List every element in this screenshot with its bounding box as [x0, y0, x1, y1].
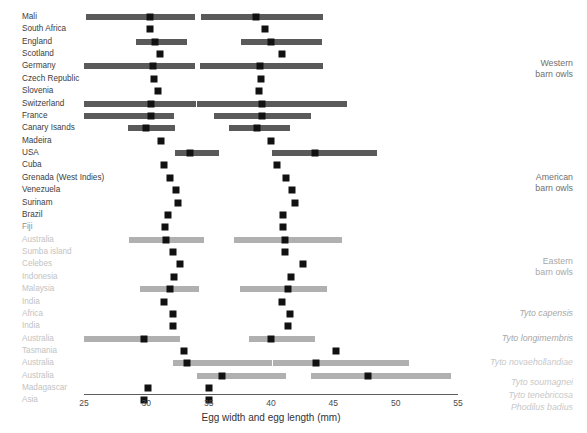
length-mean-marker	[268, 38, 275, 45]
length-mean-marker	[268, 335, 275, 342]
width-mean-marker	[147, 14, 154, 21]
width-mean-marker	[152, 38, 159, 45]
row-label: Switzerland	[22, 99, 64, 107]
length-mean-marker	[285, 323, 292, 330]
width-mean-marker	[186, 150, 193, 157]
length-mean-marker	[332, 347, 339, 354]
length-mean-marker	[274, 162, 281, 169]
width-mean-marker	[219, 372, 226, 379]
length-mean-marker	[254, 125, 261, 132]
row-label: England	[22, 38, 52, 46]
x-tick-label: 55	[453, 398, 462, 408]
group-annotation: Western barn owls	[535, 58, 573, 80]
width-range-bar	[84, 336, 180, 342]
width-mean-marker	[163, 236, 170, 243]
row-label: USA	[22, 149, 39, 157]
length-mean-marker	[255, 88, 262, 95]
row-label: Brazil	[22, 211, 42, 219]
length-range-bar	[201, 14, 323, 20]
width-range-bar	[136, 39, 187, 45]
length-mean-marker	[253, 14, 260, 21]
length-range-bar	[241, 39, 322, 45]
width-mean-marker	[148, 112, 155, 119]
row-label: Celebes	[22, 260, 52, 268]
group-annotation: Tyto longimembris	[502, 333, 573, 344]
length-mean-marker	[258, 75, 265, 82]
length-range-bar	[311, 373, 451, 379]
width-range-bar	[86, 14, 194, 20]
group-annotation: Tyto novaehollandiae	[490, 358, 573, 369]
row-label: Africa	[22, 310, 43, 318]
width-range-bar	[84, 101, 196, 107]
length-mean-marker	[312, 360, 319, 367]
row-label: Fiji	[22, 223, 32, 231]
length-mean-marker	[300, 261, 307, 268]
row-label: Sumba island	[22, 248, 72, 256]
length-mean-marker	[311, 150, 318, 157]
length-mean-marker	[287, 273, 294, 280]
length-mean-marker	[281, 249, 288, 256]
width-mean-marker	[169, 249, 176, 256]
width-mean-marker	[167, 174, 174, 181]
row-label: Tasmania	[22, 347, 57, 355]
width-mean-marker	[160, 298, 167, 305]
length-mean-marker	[282, 174, 289, 181]
width-mean-marker	[140, 335, 147, 342]
x-axis-line	[84, 394, 458, 395]
width-mean-marker	[148, 100, 155, 107]
x-tick-label: 35	[204, 398, 213, 408]
length-mean-marker	[281, 236, 288, 243]
width-mean-marker	[147, 26, 154, 33]
row-label: India	[22, 322, 40, 330]
length-range-bar	[272, 150, 377, 156]
width-range-bar	[128, 125, 175, 131]
width-mean-marker	[157, 51, 164, 58]
row-label: Mali	[22, 13, 37, 21]
length-mean-marker	[291, 199, 298, 206]
length-mean-marker	[365, 372, 372, 379]
x-tick-label: 50	[391, 398, 400, 408]
width-mean-marker	[167, 286, 174, 293]
group-annotation: Tyto soumagnei	[511, 378, 573, 389]
egg-dimension-chart: MaliSouth AfricaEnglandScotlandGermanyCz…	[0, 0, 587, 433]
width-mean-marker	[149, 63, 156, 70]
length-range-bar	[273, 360, 409, 366]
length-mean-marker	[289, 187, 296, 194]
row-label: South Africa	[22, 25, 66, 33]
width-mean-marker	[176, 261, 183, 268]
width-range-bar	[197, 373, 286, 379]
row-label: Slovenia	[22, 87, 53, 95]
row-label: Germany	[22, 62, 56, 70]
width-mean-marker	[144, 385, 151, 392]
width-mean-marker	[160, 162, 167, 169]
length-range-bar	[249, 336, 315, 342]
length-mean-marker	[268, 137, 275, 144]
length-mean-marker	[286, 310, 293, 317]
row-label: Madeira	[22, 137, 52, 145]
row-label: Asia	[22, 396, 38, 404]
width-mean-marker	[164, 211, 171, 218]
row-label: Australia	[22, 236, 54, 244]
row-label: Scotland	[22, 50, 54, 58]
x-axis-title: Egg width and egg length (mm)	[84, 412, 458, 423]
x-tick-label: 40	[266, 398, 275, 408]
group-annotation: Eastern barn owls	[535, 256, 573, 278]
length-mean-marker	[259, 100, 266, 107]
row-label: Venezuela	[22, 186, 60, 194]
width-mean-marker	[162, 224, 169, 231]
row-label: Surinam	[22, 198, 53, 206]
row-label: France	[22, 112, 47, 120]
length-mean-marker	[280, 211, 287, 218]
length-mean-marker	[279, 298, 286, 305]
group-annotation: American barn owls	[535, 172, 573, 194]
row-label: Canary Isands	[22, 124, 75, 132]
length-mean-marker	[261, 26, 268, 33]
length-mean-marker	[205, 385, 212, 392]
length-mean-marker	[256, 63, 263, 70]
width-range-bar	[175, 150, 219, 156]
width-mean-marker	[158, 137, 165, 144]
width-mean-marker	[180, 347, 187, 354]
width-mean-marker	[174, 199, 181, 206]
length-mean-marker	[280, 224, 287, 231]
group-annotation: Tyto capensis	[519, 308, 573, 319]
